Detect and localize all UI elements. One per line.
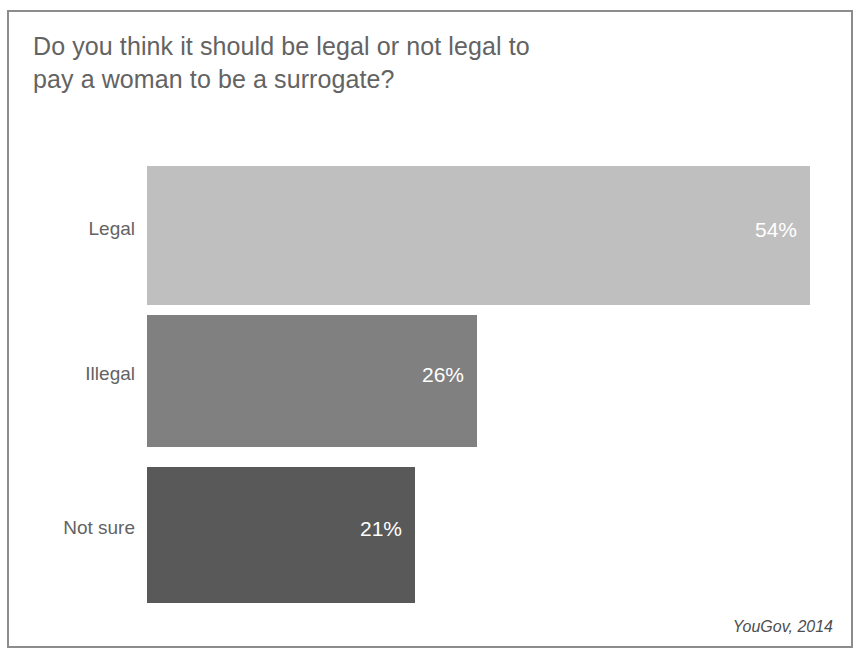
bar-value-not-sure: 21% <box>360 517 402 541</box>
chart-page: Do you think it should be legal or not l… <box>0 0 867 668</box>
chart-frame: Do you think it should be legal or not l… <box>7 10 853 648</box>
bar-row-legal: Legal 54% <box>9 166 855 305</box>
bar-not-sure: 21% <box>147 467 415 603</box>
bar-legal: 54% <box>147 166 810 305</box>
bar-value-illegal: 26% <box>422 363 464 387</box>
bar-category-label-not-sure: Not sure <box>15 517 135 539</box>
bar-category-label-legal: Legal <box>15 218 135 240</box>
bar-chart-plot-area: Legal 54% Illegal 26% Not sure <box>9 12 855 650</box>
bar-illegal: 26% <box>147 315 477 447</box>
bar-row-not-sure: Not sure 21% <box>9 467 855 603</box>
bar-category-label-illegal: Illegal <box>15 363 135 385</box>
bar-row-illegal: Illegal 26% <box>9 315 855 447</box>
bar-value-legal: 54% <box>755 218 797 242</box>
source-attribution: YouGov, 2014 <box>733 618 833 636</box>
